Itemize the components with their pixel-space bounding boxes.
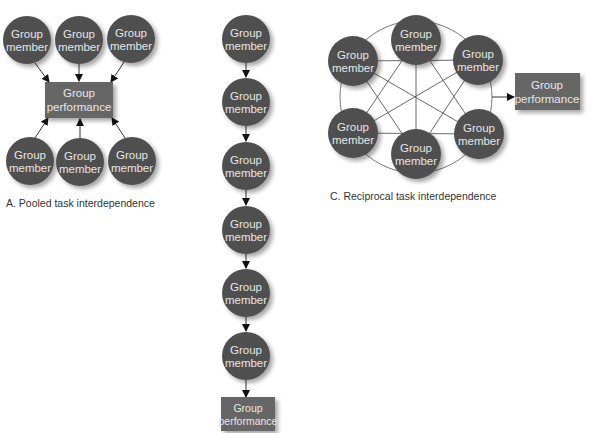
svg-text:Group: Group xyxy=(11,28,43,40)
svg-text:member: member xyxy=(225,40,267,52)
sequential-performance-box: Group performance xyxy=(219,397,278,431)
svg-text:member: member xyxy=(332,134,374,146)
reciprocal-member: Groupmember xyxy=(328,108,378,158)
reciprocal-member: Groupmember xyxy=(453,35,503,85)
svg-text:performance: performance xyxy=(219,415,278,427)
sequential-member: Groupmember xyxy=(222,206,270,254)
sequential-member: Groupmember xyxy=(222,15,270,63)
reciprocal-member: Groupmember xyxy=(454,109,504,159)
svg-text:Group: Group xyxy=(230,344,262,356)
sequential-member: Groupmember xyxy=(222,269,270,317)
pooled-member: Groupmember xyxy=(3,16,51,64)
pooled-member: Groupmember xyxy=(6,137,54,185)
task-interdependence-diagram: Group performance Groupmember Groupmembe… xyxy=(0,0,596,433)
svg-text:member: member xyxy=(6,41,48,53)
pooled-member: Groupmember xyxy=(55,16,103,64)
svg-text:Group: Group xyxy=(63,87,95,99)
svg-text:member: member xyxy=(395,155,437,167)
svg-text:member: member xyxy=(225,231,267,243)
svg-text:Group: Group xyxy=(230,154,262,166)
pooled-member: Groupmember xyxy=(107,15,155,63)
svg-text:member: member xyxy=(395,41,437,53)
svg-text:member: member xyxy=(110,40,152,52)
pooled-diagram: Group performance Groupmember Groupmembe… xyxy=(3,15,156,209)
pooled-performance-box: Group performance xyxy=(45,82,113,118)
pooled-member: Groupmember xyxy=(56,138,104,186)
sequential-member: Groupmember xyxy=(222,142,270,190)
svg-text:Group: Group xyxy=(233,402,262,414)
pooled-member: Groupmember xyxy=(108,137,156,185)
svg-text:Group: Group xyxy=(337,49,369,61)
reciprocal-caption: C. Reciprocal task interdependence xyxy=(330,190,497,202)
svg-text:Group: Group xyxy=(230,281,262,293)
reciprocal-member: Groupmember xyxy=(391,129,441,179)
svg-text:Group: Group xyxy=(116,149,148,161)
svg-text:Group: Group xyxy=(63,28,95,40)
svg-text:member: member xyxy=(9,162,51,174)
svg-text:member: member xyxy=(457,61,499,73)
svg-text:Group: Group xyxy=(230,27,262,39)
pooled-caption: A. Pooled task interdependence xyxy=(6,197,155,209)
svg-text:member: member xyxy=(225,103,267,115)
svg-text:Group: Group xyxy=(400,28,432,40)
svg-text:performance: performance xyxy=(515,93,580,105)
sequential-member: Groupmember xyxy=(222,332,270,380)
svg-text:Group: Group xyxy=(531,79,563,91)
svg-text:Group: Group xyxy=(115,27,147,39)
svg-text:Group: Group xyxy=(337,121,369,133)
svg-text:Group: Group xyxy=(64,150,96,162)
svg-text:Group: Group xyxy=(400,142,432,154)
svg-text:performance: performance xyxy=(47,101,112,113)
svg-text:member: member xyxy=(332,62,374,74)
svg-text:Group: Group xyxy=(462,48,494,60)
svg-text:member: member xyxy=(59,163,101,175)
svg-text:member: member xyxy=(225,167,267,179)
svg-text:Group: Group xyxy=(463,122,495,134)
svg-text:member: member xyxy=(225,294,267,306)
svg-text:member: member xyxy=(458,135,500,147)
svg-text:member: member xyxy=(111,162,153,174)
reciprocal-member: Groupmember xyxy=(328,36,378,86)
reciprocal-member: Groupmember xyxy=(391,15,441,65)
svg-text:Group: Group xyxy=(230,218,262,230)
sequential-member: Groupmember xyxy=(222,78,270,126)
svg-text:Group: Group xyxy=(14,149,46,161)
sequential-diagram: Groupmember Groupmember Groupmember Grou… xyxy=(219,15,278,431)
svg-text:member: member xyxy=(225,357,267,369)
reciprocal-diagram: Groupmember Groupmember Groupmember Grou… xyxy=(328,15,580,202)
svg-text:member: member xyxy=(58,41,100,53)
reciprocal-performance-box: Group performance xyxy=(515,73,580,110)
svg-text:Group: Group xyxy=(230,90,262,102)
